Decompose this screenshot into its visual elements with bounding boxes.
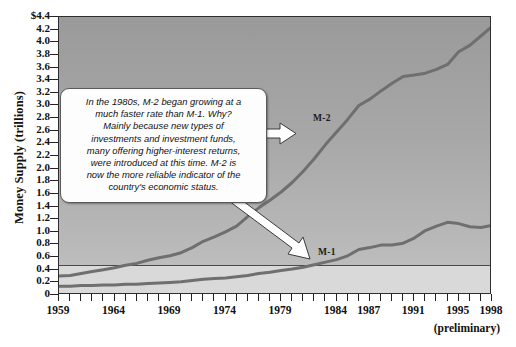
y-tick-label: 1.0 [6, 225, 50, 236]
x-tick-mark [402, 294, 403, 301]
x-tick-mark [80, 294, 81, 301]
x-tick-label: 1987 [357, 304, 380, 316]
x-tick-mark [447, 294, 448, 301]
y-tick-label: 2.4 [6, 136, 50, 147]
callout-line: were introduced at this time. M-2 is [70, 157, 257, 169]
y-tick-label: 3.0 [6, 98, 50, 109]
y-tick-mark [50, 16, 58, 17]
x-tick-mark [191, 294, 192, 301]
y-tick-mark [50, 67, 58, 68]
series-label-m2: M-2 [313, 113, 331, 123]
x-tick-mark [347, 294, 348, 301]
x-tick-mark [136, 294, 137, 301]
y-tick-mark [50, 29, 58, 30]
x-tick-mark [58, 294, 59, 301]
x-tick-label: 1969 [158, 304, 181, 316]
x-tick-label: 1995 [446, 304, 469, 316]
y-tick-label: 3.2 [6, 86, 50, 97]
y-tick-mark [50, 155, 58, 156]
y-tick-label: 3.8 [6, 48, 50, 59]
preliminary-note: (preliminary) [434, 322, 500, 334]
x-tick-mark [69, 294, 70, 301]
x-tick-mark [147, 294, 148, 301]
y-tick-label: 1.4 [6, 200, 50, 211]
x-tick-mark [158, 294, 159, 301]
y-tick-mark [50, 41, 58, 42]
y-tick-label: 3.4 [6, 73, 50, 84]
x-tick-label: 1964 [102, 304, 125, 316]
x-tick-mark [424, 294, 425, 301]
x-tick-mark [291, 294, 292, 301]
x-tick-mark [380, 294, 381, 301]
x-tick-mark [469, 294, 470, 301]
x-tick-mark [336, 294, 337, 301]
x-tick-mark [102, 294, 103, 301]
y-axis-labels: $4.44.24.03.83.63.43.23.02.82.62.42.22.0… [0, 0, 50, 347]
x-tick-label: 1979 [269, 304, 292, 316]
y-tick-label: 1.6 [6, 187, 50, 198]
y-tick-mark [50, 256, 58, 257]
line-m1 [59, 222, 491, 286]
y-tick-label: 0.8 [6, 237, 50, 248]
x-tick-label: 1991 [402, 304, 425, 316]
y-tick-label: 2.2 [6, 149, 50, 160]
y-tick-mark [50, 206, 58, 207]
y-tick-mark [50, 193, 58, 194]
y-tick-mark [50, 231, 58, 232]
y-tick-mark [50, 168, 58, 169]
series-label-m1: M-1 [318, 247, 336, 257]
callout-line: many offering higher-interest returns, [70, 145, 257, 157]
callout-line: In the 1980s, M-2 began growing at a [70, 96, 257, 108]
y-tick-label: 3.6 [6, 61, 50, 72]
y-tick-mark [50, 294, 58, 295]
y-tick-label: 2.0 [6, 162, 50, 173]
y-tick-mark [50, 180, 58, 181]
y-tick-label: 1.2 [6, 212, 50, 223]
x-tick-mark [413, 294, 414, 301]
y-tick-mark [50, 281, 58, 282]
x-tick-mark [225, 294, 226, 301]
y-tick-label: 0.2 [6, 275, 50, 286]
x-tick-mark [169, 294, 170, 301]
x-tick-label: 1974 [213, 304, 236, 316]
x-tick-mark [280, 294, 281, 301]
callout-line: Mainly because new types of [70, 120, 257, 132]
y-tick-mark [50, 104, 58, 105]
x-tick-mark [202, 294, 203, 301]
y-tick-mark [50, 269, 58, 270]
callout-line: investments and investment funds, [70, 133, 257, 145]
x-tick-mark [180, 294, 181, 301]
y-tick-label: 0.6 [6, 250, 50, 261]
x-tick-mark [480, 294, 481, 301]
x-tick-mark [324, 294, 325, 301]
callout-line: now the more reliable indicator of the [70, 169, 257, 181]
x-tick-mark [358, 294, 359, 301]
callout-box: In the 1980s, M-2 began growing at a muc… [60, 88, 267, 203]
y-tick-label: 2.6 [6, 124, 50, 135]
y-tick-mark [50, 243, 58, 244]
x-tick-mark [302, 294, 303, 301]
x-tick-mark [125, 294, 126, 301]
y-tick-label: 4.2 [6, 23, 50, 34]
y-tick-label: 1.8 [6, 174, 50, 185]
x-tick-mark [491, 294, 492, 301]
y-tick-mark [50, 218, 58, 219]
y-tick-mark [50, 142, 58, 143]
y-tick-label: 2.8 [6, 111, 50, 122]
x-tick-label: 1984 [324, 304, 347, 316]
x-tick-mark [247, 294, 248, 301]
x-tick-mark [391, 294, 392, 301]
x-tick-mark [258, 294, 259, 301]
callout-line: much faster rate than M-1. Why? [70, 108, 257, 120]
x-tick-mark [313, 294, 314, 301]
y-tick-mark [50, 92, 58, 93]
y-tick-mark [50, 54, 58, 55]
x-tick-mark [236, 294, 237, 301]
y-tick-mark [50, 79, 58, 80]
x-tick-mark [269, 294, 270, 301]
y-tick-mark [50, 117, 58, 118]
x-tick-mark [114, 294, 115, 301]
y-tick-label: 0 [6, 288, 50, 299]
x-tick-mark [91, 294, 92, 301]
x-tick-label: 1998 [480, 304, 503, 316]
